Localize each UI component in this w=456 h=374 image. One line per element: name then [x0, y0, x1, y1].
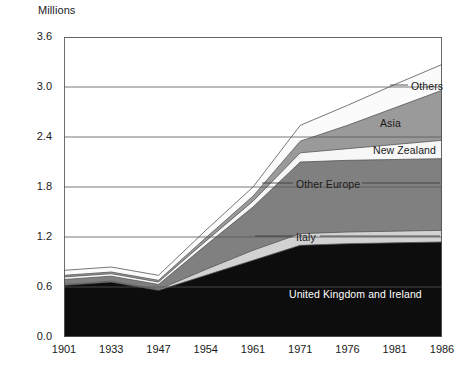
y-tick-3-0: 3.0	[18, 80, 52, 92]
x-tick-1901: 1901	[52, 343, 76, 355]
y-axis-unit-label: Millions	[38, 4, 75, 16]
chart-container: Millions 0.00.61.21.82.43.03.6 190119331…	[0, 0, 456, 374]
y-tick-0-6: 0.6	[18, 280, 52, 292]
series-label-other-europe: Other Europe	[296, 178, 360, 190]
x-tick-1961: 1961	[241, 343, 265, 355]
series-label-asia: Asia	[380, 117, 401, 129]
y-tick-3-6: 3.6	[18, 30, 52, 42]
series-label-others: Others	[411, 80, 443, 92]
y-tick-1-2: 1.2	[18, 230, 52, 242]
series-label-uk-ireland: United Kingdom and Ireland	[289, 288, 422, 300]
y-tick-2-4: 2.4	[18, 130, 52, 142]
series-label-italy: Italy	[296, 231, 316, 243]
series-label-new-zealand: New Zealand	[373, 144, 436, 156]
x-tick-1954: 1954	[194, 343, 218, 355]
x-tick-1933: 1933	[99, 343, 123, 355]
x-tick-1986: 1986	[430, 343, 454, 355]
y-tick-1-8: 1.8	[18, 180, 52, 192]
y-tick-0-0: 0.0	[18, 330, 52, 342]
x-tick-1976: 1976	[335, 343, 359, 355]
x-tick-1971: 1971	[288, 343, 312, 355]
x-tick-1947: 1947	[146, 343, 170, 355]
x-tick-1981: 1981	[383, 343, 407, 355]
